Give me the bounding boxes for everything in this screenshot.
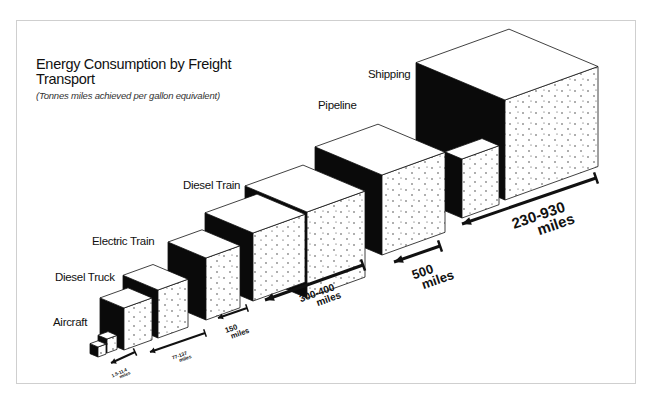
- cube-group-shipping: [90, 332, 117, 357]
- cube-diagram: 1.5-11.4miles77-137miles150miles300-400m…: [0, 0, 653, 399]
- mode-label-aircraft: Aircraft: [53, 316, 88, 328]
- mode-label-pipeline: Pipeline: [318, 99, 357, 111]
- range-label-aircraft: 1.5-11.4miles: [111, 366, 132, 382]
- mode-label-diesel-train: Diesel Train: [183, 179, 240, 191]
- range-label-pipeline: 500miles: [410, 255, 456, 294]
- arrowhead-icon: [394, 255, 404, 263]
- mode-label-electric-train: Electric Train: [92, 235, 154, 247]
- range-label-electric-train: 150miles: [224, 319, 251, 342]
- cube-front-dotted: [206, 246, 240, 320]
- arrowhead-icon: [462, 217, 472, 225]
- cube-side-shaded: [445, 152, 462, 218]
- range-label-diesel-truck: 77-137miles: [171, 349, 192, 365]
- mode-label-diesel-truck: Diesel Truck: [55, 271, 115, 283]
- mode-label-shipping: Shipping: [368, 68, 410, 80]
